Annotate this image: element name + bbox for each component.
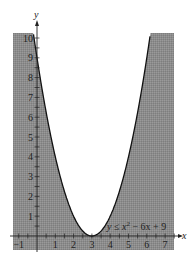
- y-tick-label: 2: [28, 191, 33, 202]
- y-tick-label: 6: [28, 112, 33, 123]
- x-tick-label: 6: [144, 239, 149, 250]
- x-tick-label: 5: [126, 239, 131, 250]
- y-tick-label: 9: [28, 52, 33, 63]
- y-tick-label: 5: [28, 132, 33, 143]
- y-axis-arrow-icon: [35, 20, 39, 26]
- x-tick-label: 2: [71, 239, 76, 250]
- y-tick-label: 10: [23, 33, 33, 44]
- x-axis-label: x: [181, 230, 187, 241]
- x-tick-label: 4: [108, 239, 113, 250]
- x-tick-label: 7: [163, 239, 168, 250]
- y-tick-label: 3: [28, 171, 33, 182]
- y-axis-label: y: [33, 9, 39, 20]
- x-tick-label: −1: [13, 239, 24, 250]
- inequality-graph: −1123456712345678910xyy ≤ x2 − 6x + 9: [0, 0, 191, 264]
- x-tick-label: 1: [53, 239, 58, 250]
- y-tick-label: 1: [28, 211, 33, 222]
- inequality-annotation: y ≤ x2 − 6x + 9: [106, 220, 166, 232]
- y-tick-label: 4: [28, 151, 33, 162]
- y-tick-label: 8: [28, 72, 33, 83]
- y-tick-label: 7: [28, 92, 33, 103]
- x-tick-label: 3: [89, 239, 94, 250]
